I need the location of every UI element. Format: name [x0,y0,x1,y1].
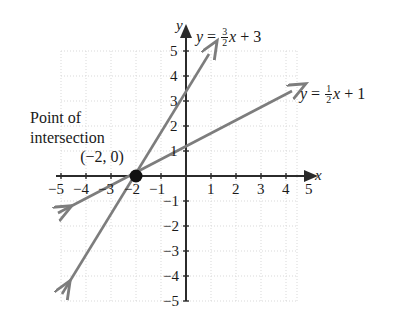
x-tick-label-3: 3 [257,182,265,197]
y-tick-label-minus5: −5 [163,294,179,309]
y-tick-label-5: 5 [170,44,178,59]
intersection-annotation-line-1: Point of [30,108,160,128]
graph-figure: y x −5 −4 −3 −2 −1 1 2 3 4 5 5 4 3 2 1 −… [0,0,394,315]
intersection-annotation-coordinates: (−2, 0) [30,147,160,167]
intersection-annotation: Point of intersection (−2, 0) [30,108,160,167]
y-tick-label-4: 4 [170,69,178,84]
y-tick-label-minus3: −3 [163,244,179,259]
x-tick-label-minus3: −3 [98,182,114,197]
x-tick-label-minus4: −4 [73,182,89,197]
equation-label-shallow-line: y = 12x + 1 [300,84,365,105]
x-tick-label-minus5: −5 [48,182,64,197]
x-tick-label-minus2: −2 [124,182,140,197]
y-tick-label-minus4: −4 [163,269,179,284]
x-tick-label-2: 2 [232,182,240,197]
y-tick-label-minus1: −1 [163,194,179,209]
y-tick-label-3: 3 [170,94,178,109]
x-tick-label-1: 1 [207,182,215,197]
y-tick-label-1: 1 [170,144,178,159]
y-tick-label-minus2: −2 [163,219,179,234]
x-axis-label: x [315,168,322,183]
y-tick-label-2: 2 [170,119,178,134]
x-tick-label-5: 5 [305,182,313,197]
equation-label-steep-line: y = 32x + 3 [196,27,261,48]
intersection-annotation-line-2: intersection [30,128,160,148]
y-axis-label: y [176,18,183,33]
x-tick-label-4: 4 [282,182,290,197]
